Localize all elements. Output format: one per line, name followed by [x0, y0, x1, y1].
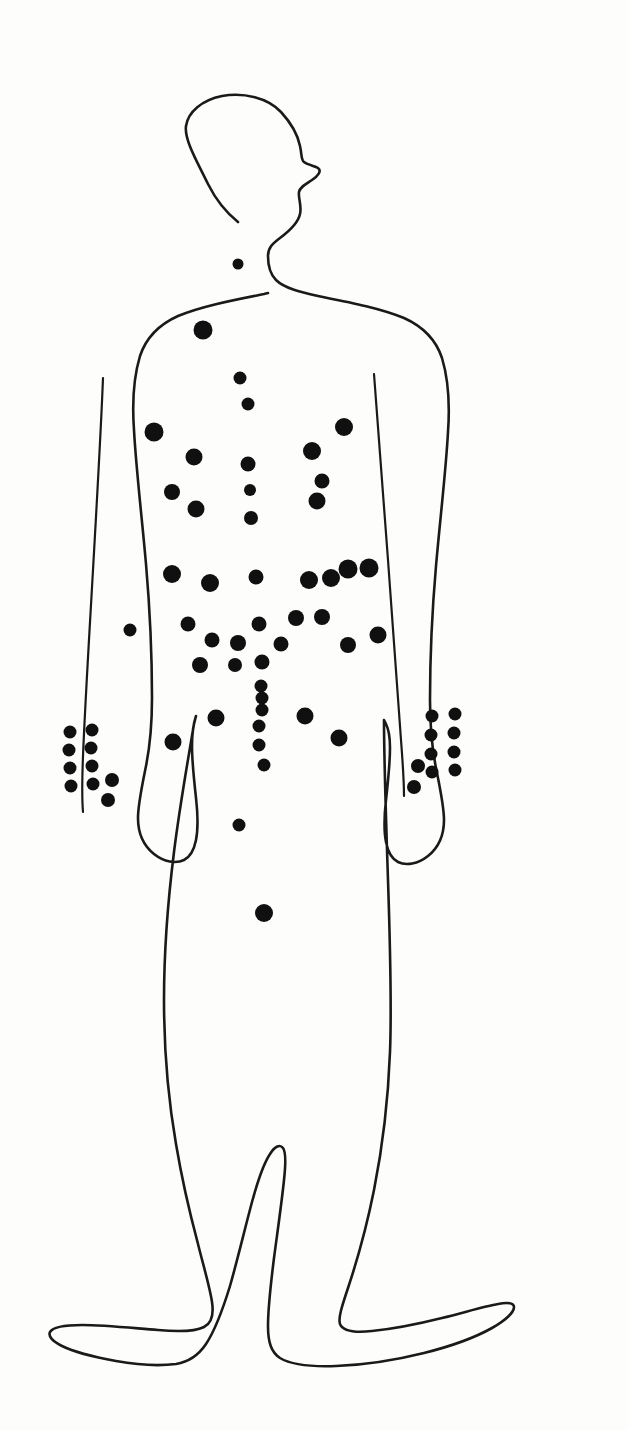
marker-dot-left-flank-outer [124, 624, 137, 637]
marker-dot-right-abdomen-mid-b [314, 609, 330, 625]
marker-dot-midline-chain-5 [253, 739, 266, 752]
marker-dot-right-chest-lateral [335, 418, 353, 436]
marker-dot-midline-chain-3 [256, 704, 269, 717]
marker-dot-right-chest-inner [303, 442, 321, 460]
marker-dot-right-hand-r2c2 [448, 727, 461, 740]
marker-dot-left-hand-r1c2 [86, 724, 99, 737]
marker-dot-midline-chain-4 [253, 720, 266, 733]
marker-dot-left-hand-r3c1 [64, 762, 77, 775]
marker-dot-epigastric-midline [244, 511, 258, 525]
marker-dot-right-hand-r4c2 [449, 764, 462, 777]
marker-dot-umbilical-upper [252, 617, 267, 632]
marker-dot-left-abdomen-low [192, 657, 208, 673]
marker-dot-left-chest-low [164, 484, 180, 500]
marker-dot-umbilical-left [230, 635, 246, 651]
marker-dot-right-upper-abdomen-d [360, 559, 379, 578]
marker-dot-right-flank-outer [370, 627, 387, 644]
marker-dot-umbilical-right [274, 637, 289, 652]
marker-dot-left-hand-r3c2 [86, 760, 99, 773]
marker-dot-sternum-mid [242, 398, 255, 411]
marker-dot-midline-chain-1 [255, 680, 268, 693]
marker-dot-left-hand-r4c2 [87, 778, 100, 791]
marker-dot-right-abdomen-mid-a [288, 610, 304, 626]
marker-dot-epigastrium [249, 570, 264, 585]
marker-dot-left-hand-r4c1 [65, 780, 78, 793]
marker-dot-left-chest-lateral [145, 423, 164, 442]
marker-dot-right-hand-outer-b [407, 780, 421, 794]
marker-dot-midline-below-umbilicus-b [255, 655, 270, 670]
marker-dot-layer [63, 259, 462, 923]
marker-dot-right-hand-r1c1 [426, 710, 439, 723]
marker-dot-right-hand-r3c2 [448, 746, 461, 759]
marker-dot-right-hand-outer-a [411, 759, 425, 773]
marker-dot-left-upper-abdomen-inner [201, 574, 219, 592]
marker-dot-right-hand-r2c1 [425, 729, 438, 742]
marker-dot-right-upper-abdomen-c [339, 560, 358, 579]
marker-dot-right-lower-abdomen-b [331, 730, 348, 747]
marker-dot-left-hand-outer-a [105, 773, 119, 787]
marker-dot-right-chest-low [315, 474, 330, 489]
marker-dot-sternum-xiphoid [244, 484, 256, 496]
marker-dot-left-hand-outer-b [101, 793, 115, 807]
marker-dot-left-hand-r2c2 [85, 742, 98, 755]
body-map-svg [0, 0, 628, 1430]
marker-dot-hypogastric [233, 819, 246, 832]
marker-dot-left-lower-abdomen-b [165, 734, 182, 751]
marker-dot-right-upper-abdomen-a [300, 571, 318, 589]
marker-dot-midline-chain-2 [256, 692, 269, 705]
marker-dot-sternum-upper [234, 372, 247, 385]
marker-dot-right-chest-lower2 [309, 493, 326, 510]
marker-dot-midline-below-umbilicus-a [228, 658, 242, 672]
body-map-figure: Body Map Diagram [0, 0, 628, 1430]
marker-dot-suprapubic [255, 904, 273, 922]
marker-dot-right-upper-abdomen-b [322, 569, 340, 587]
marker-dot-left-hand-r1c1 [64, 726, 77, 739]
marker-dot-left-abdomen-mid [181, 617, 196, 632]
body-contour [50, 95, 515, 1366]
marker-dot-right-hand-r3c1 [425, 748, 438, 761]
marker-dot-right-lower-abdomen-a [297, 708, 314, 725]
marker-dot-left-upper-abdomen [163, 565, 181, 583]
marker-dot-midline-chain-6 [258, 759, 271, 772]
marker-dot-left-chest-lower2 [188, 501, 205, 518]
marker-dot-left-lower-abdomen-a [208, 710, 225, 727]
marker-dot-upper-chest-midline [194, 321, 213, 340]
body-outline-group [50, 95, 515, 1366]
marker-dot-neck-suprasternal [233, 259, 244, 270]
marker-dot-right-hand-r1c2 [449, 708, 462, 721]
marker-dot-left-abdomen-inner [205, 633, 220, 648]
marker-dot-left-hand-r2c1 [63, 744, 76, 757]
marker-dot-right-abdomen-low [340, 637, 356, 653]
marker-dot-right-hand-r4c1 [426, 766, 439, 779]
marker-dot-sternum-lower [241, 457, 256, 472]
marker-dot-left-chest-inner [186, 449, 203, 466]
